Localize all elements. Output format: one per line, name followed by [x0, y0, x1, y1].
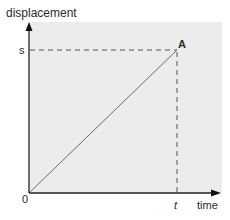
s-tick-label: s [19, 44, 25, 56]
origin-label: 0 [22, 193, 28, 205]
x-axis-label: time [197, 199, 218, 211]
y-axis-label: displacement [6, 6, 77, 20]
point-a-label: A [178, 38, 186, 50]
t-tick-label: t [174, 199, 178, 211]
plot-panel [29, 22, 222, 193]
displacement-time-graph: displacement time s t 0 A [0, 0, 230, 220]
